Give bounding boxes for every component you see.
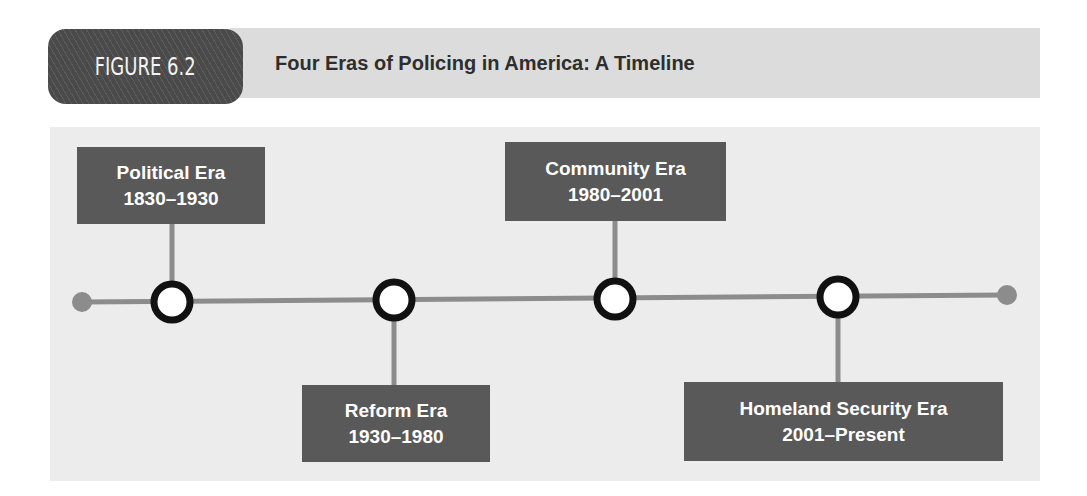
era-name: Political Era — [117, 160, 226, 186]
era-period: 1830–1930 — [123, 186, 218, 212]
era-node-political — [154, 284, 190, 320]
timeline-end-dot — [997, 285, 1017, 305]
era-period: 1980–2001 — [568, 182, 663, 208]
era-period: 2001–Present — [782, 422, 905, 448]
era-name: Homeland Security Era — [739, 396, 947, 422]
era-node-reform — [376, 282, 412, 318]
era-box-political: Political Era 1830–1930 — [77, 147, 265, 224]
timeline-axis — [82, 295, 1007, 302]
era-name: Community Era — [545, 156, 685, 182]
era-node-homeland — [820, 279, 856, 315]
figure-label: FIGURE 6.2 — [95, 52, 196, 81]
timeline-start-dot — [72, 292, 92, 312]
figure-badge: FIGURE 6.2 — [48, 29, 243, 104]
era-box-community: Community Era 1980–2001 — [505, 142, 726, 221]
era-node-community — [597, 281, 633, 317]
era-box-homeland: Homeland Security Era 2001–Present — [684, 382, 1003, 461]
era-box-reform: Reform Era 1930–1980 — [302, 385, 490, 462]
era-name: Reform Era — [345, 398, 447, 424]
era-period: 1930–1980 — [348, 424, 443, 450]
